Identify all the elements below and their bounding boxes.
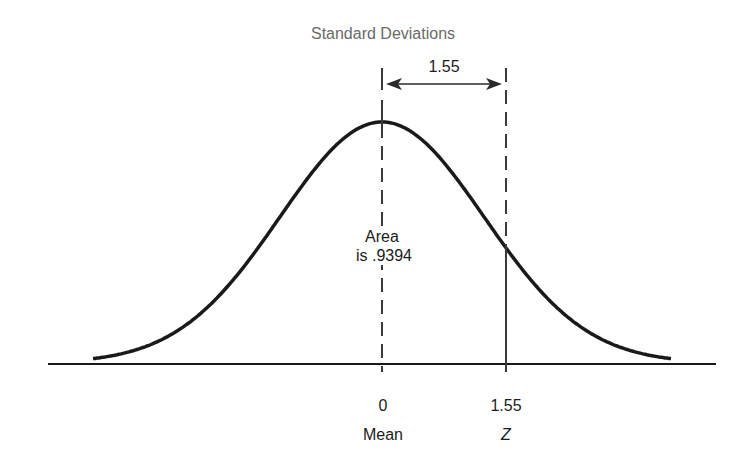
diagram-title: Standard Deviations <box>311 24 455 43</box>
tick-caption-z: Z <box>501 425 511 444</box>
distance-label: 1.55 <box>428 57 459 76</box>
area-label-line1: Area <box>363 227 401 246</box>
tick-label-z-value: 1.55 <box>490 396 521 415</box>
tick-label-mean-value: 0 <box>379 396 388 415</box>
tick-caption-mean: Mean <box>363 425 403 444</box>
area-label-line2: is .9394 <box>354 246 414 265</box>
